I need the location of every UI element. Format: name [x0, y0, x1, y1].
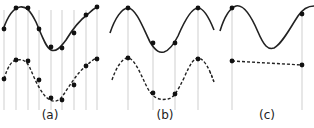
panel-a-label: (a): [30, 108, 70, 122]
panel-c-original-signal: [220, 6, 314, 49]
panel-a-original-signal: [3, 7, 97, 51]
panel-b-sample-lines: [128, 8, 198, 110]
panel-c-sample-lines: [232, 9, 302, 110]
panel-b-sample-dots: [126, 6, 201, 97]
panel-b-reconstructed-signal: [112, 58, 214, 99]
panel-c-label: (c): [247, 108, 287, 122]
panel-c-sample-dots: [230, 6, 305, 68]
panel-c-aliased-signal: [232, 61, 302, 65]
panel-b-c-dashed-tail: [210, 72, 214, 82]
panel-a-sample-lines: [4, 6, 97, 110]
panel-b-label: (b): [145, 108, 185, 122]
